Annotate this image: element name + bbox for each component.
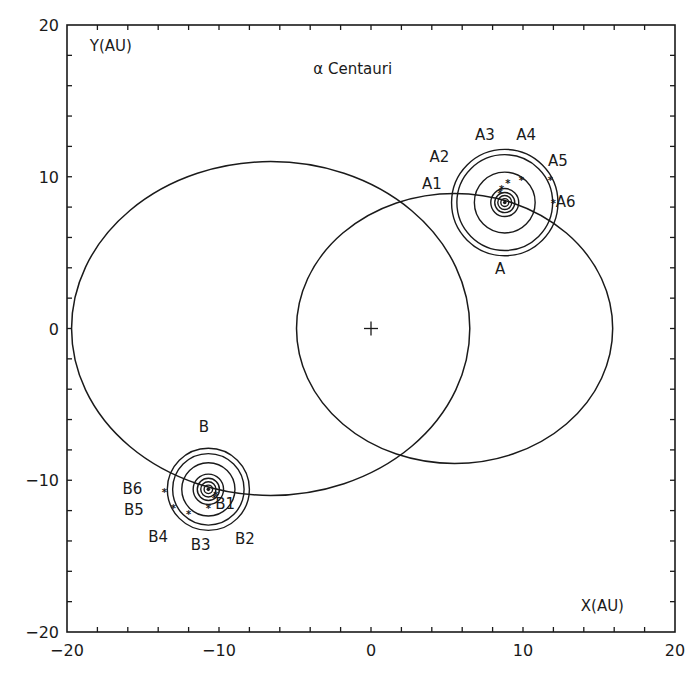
x-tick-label: 20 [665, 641, 685, 660]
orbit-b-ellipse [72, 162, 470, 496]
system-b: B*B1*B2*B3*B4*B5*B6 [122, 418, 254, 554]
position-marker-icon: * [162, 487, 168, 498]
x-tick-label: 10 [513, 641, 533, 660]
star-systems: A*A1*A2*A3*A4*A5*A6B*B1*B2*B3*B4*B5*B6 [122, 126, 575, 554]
position-marker-icon: * [548, 175, 554, 186]
orbit-ellipses [72, 162, 613, 496]
position-label: A5 [548, 152, 568, 170]
position-label: A6 [556, 193, 576, 211]
system-label: B [199, 418, 209, 436]
position-marker-icon: * [171, 503, 177, 514]
position-label: B6 [122, 480, 142, 498]
position-label: B5 [124, 501, 144, 519]
position-marker-icon: * [186, 509, 192, 520]
position-label: B3 [191, 536, 211, 554]
y-tick-label: −20 [25, 623, 59, 642]
position-marker-icon: * [206, 503, 212, 514]
position-label: A2 [429, 148, 449, 166]
position-label: B2 [235, 530, 255, 548]
chart-title: α Centauri [313, 60, 392, 78]
x-tick-label: 0 [366, 641, 376, 660]
x-tick-label: −10 [202, 641, 236, 660]
y-tick-label: 20 [39, 16, 59, 35]
y-tick-label: 10 [39, 168, 59, 187]
star-center-icon [503, 201, 507, 205]
position-marker-icon: * [505, 178, 511, 189]
x-tick-label: −20 [50, 641, 84, 660]
position-label: A4 [516, 126, 536, 144]
system-label: A [495, 260, 506, 278]
position-marker-icon: * [519, 175, 525, 186]
position-label: A3 [475, 126, 495, 144]
x-axis-label: X(AU) [581, 597, 624, 615]
position-label: B4 [148, 528, 168, 546]
barycenter-cross-icon [364, 322, 378, 336]
alpha-centauri-orbit-chart: −20−1001020−20−1001020 α Centauri Y(AU) … [0, 0, 694, 676]
position-marker-icon: * [212, 493, 218, 504]
star-center-icon [207, 488, 211, 492]
y-axis-label: Y(AU) [89, 37, 132, 55]
position-label: A1 [422, 175, 442, 193]
system-a: A*A1*A2*A3*A4*A5*A6 [422, 126, 576, 278]
position-label: B1 [215, 495, 235, 513]
y-tick-label: −10 [25, 471, 59, 490]
orbit-a-ellipse [297, 193, 613, 463]
axis-tick-labels: −20−1001020−20−1001020 [25, 16, 685, 660]
y-tick-label: 0 [49, 320, 59, 339]
